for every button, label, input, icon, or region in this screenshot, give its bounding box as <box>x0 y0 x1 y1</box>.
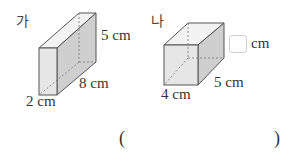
dimension-height-ga: 5 cm <box>101 27 131 44</box>
dimension-width-na: 4 cm <box>161 86 191 103</box>
figure-label-ga: 가 <box>16 10 29 30</box>
answer-close-paren: ) <box>274 128 280 149</box>
dimension-width-ga: 2 cm <box>26 93 56 110</box>
answer-open-paren: ( <box>119 128 125 149</box>
dimension-height-unit-na: cm <box>251 35 269 52</box>
dimension-length-na: 5 cm <box>214 74 244 91</box>
unknown-height-box[interactable] <box>229 35 247 53</box>
answer-field[interactable] <box>130 128 270 148</box>
figure-label-na: 나 <box>151 10 164 30</box>
dimension-length-ga: 8 cm <box>79 75 109 92</box>
